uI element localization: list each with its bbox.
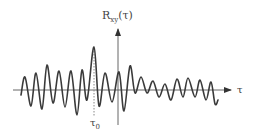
- tau0-label: τ0: [90, 117, 100, 131]
- correlation-diagram: Rxy(τ) τ τ0: [0, 0, 255, 138]
- y-axis-label: Rxy(τ): [102, 9, 133, 24]
- correlation-curve: [21, 47, 218, 115]
- x-axis-label: τ: [237, 84, 243, 95]
